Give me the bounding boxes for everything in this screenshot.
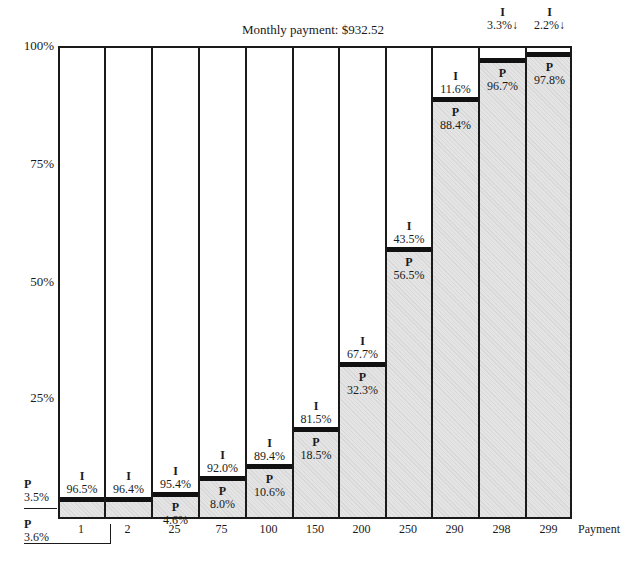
x-axis-label: Payment — [578, 522, 620, 537]
callout-p-value: 3.5% — [24, 490, 49, 504]
chart-title: Monthly payment: $932.52 — [242, 22, 384, 38]
y-tick-25: 25% — [4, 390, 54, 406]
y-tick-75: 75% — [4, 156, 54, 172]
callout-arrow-1 — [24, 508, 57, 509]
interest-label: I2.2%↓ — [527, 6, 572, 32]
y-tick-50: 50% — [4, 274, 54, 290]
x-tick-299: 299 — [525, 522, 572, 537]
interest-label: I3.3%↓ — [480, 6, 525, 32]
amortization-chart: Monthly payment: $932.52 100% 75% 50% 25… — [0, 0, 644, 562]
x-tick-150: 150 — [292, 522, 338, 537]
callout-arrow-2-v — [110, 524, 111, 544]
x-tick-200: 200 — [338, 522, 385, 537]
y-tick-100: 100% — [4, 38, 54, 54]
x-tick-75: 75 — [198, 522, 245, 537]
plot-frame — [58, 46, 572, 519]
callout-arrow-2-h — [24, 543, 111, 544]
x-tick-25: 25 — [151, 522, 198, 537]
x-tick-298: 298 — [478, 522, 525, 537]
x-tick-2: 2 — [104, 522, 151, 537]
callout-p-payment-2: P 3.6% — [24, 518, 49, 544]
callout-p-value: 3.6% — [24, 530, 49, 544]
callout-p-payment-1: P 3.5% — [24, 478, 49, 504]
x-tick-1: 1 — [58, 522, 104, 537]
x-tick-290: 290 — [431, 522, 478, 537]
x-tick-250: 250 — [385, 522, 431, 537]
x-tick-100: 100 — [245, 522, 292, 537]
